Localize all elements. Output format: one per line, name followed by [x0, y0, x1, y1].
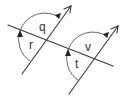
angle-label-r: r: [29, 38, 33, 52]
angle-label-t: t: [75, 57, 79, 71]
angle-marker-icon: [55, 13, 61, 19]
angle-marker-icon: [65, 49, 71, 56]
angle-label-v: v: [85, 40, 91, 54]
angle-label-q: q: [39, 20, 46, 34]
angle-diagram: q r v t: [0, 0, 127, 96]
angle-marker-icon: [103, 32, 109, 38]
transversal-line: [8, 25, 113, 66]
